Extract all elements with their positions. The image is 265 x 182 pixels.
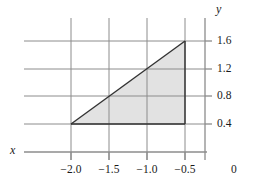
x-axis-ticks <box>71 152 185 160</box>
x-tick-label--1.0: −1.0 <box>136 163 157 175</box>
x-tick-label--0.5: −0.5 <box>174 163 195 175</box>
x-axis-label: x <box>10 143 15 158</box>
y-tick-label-0.8: 0.8 <box>217 89 232 101</box>
y-axis-label: y <box>216 2 221 17</box>
figure-container: y x 1.6 1.2 0.8 0.4 −2.0 −1.5 −1.0 −0.5 … <box>0 0 265 182</box>
y-tick-label-0.4: 0.4 <box>217 117 232 129</box>
x-tick-label--2.0: −2.0 <box>60 163 81 175</box>
x-tick-label-0: 0 <box>231 163 237 175</box>
x-tick-label--1.5: −1.5 <box>98 163 119 175</box>
y-tick-label-1.6: 1.6 <box>217 34 232 46</box>
y-axis-ticks <box>205 41 212 124</box>
y-tick-label-1.2: 1.2 <box>217 62 232 74</box>
